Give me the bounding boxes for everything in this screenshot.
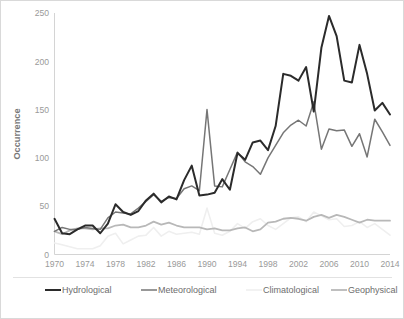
legend-label-climatological: Climatological: [263, 285, 319, 295]
plot-area: 050100150200250 197019741978198219861990…: [1, 1, 404, 319]
x-axis-tick-labels: 1970197419781982198619901994199820022006…: [45, 259, 400, 269]
y-axis-tick-labels: 050100150200250: [35, 8, 50, 260]
legend-label-geophysical: Geophysical: [348, 285, 398, 295]
chart-legend: HydrologicalMeteorologicalClimatological…: [45, 285, 398, 295]
legend-label-meteorological: Meteorological: [158, 285, 217, 295]
x-tick-label: 1970: [45, 259, 64, 269]
series-line-hydrological: [55, 16, 391, 234]
series-line-geophysical: [55, 215, 391, 234]
legend-label-hydrological: Hydrological: [62, 285, 112, 295]
series-line-meteorological: [55, 102, 391, 231]
x-tick-label: 1994: [228, 259, 247, 269]
x-tick-label: 1978: [106, 259, 125, 269]
x-tick-label: 1982: [136, 259, 155, 269]
chart-container: 050100150200250 197019741978198219861990…: [0, 0, 404, 319]
x-tick-label: 1998: [258, 259, 277, 269]
y-tick-label: 100: [35, 153, 50, 163]
y-axis-title: Occurrence: [12, 108, 22, 159]
x-tick-label: 1990: [197, 259, 216, 269]
y-tick-label: 250: [35, 8, 50, 18]
data-series-group: [55, 16, 391, 249]
x-tick-label: 2002: [289, 259, 308, 269]
y-tick-label: 50: [39, 201, 49, 211]
x-tick-label: 2006: [319, 259, 338, 269]
line-chart-svg: 050100150200250 197019741978198219861990…: [1, 1, 404, 319]
x-tick-label: 2010: [350, 259, 369, 269]
x-tick-label: 1986: [167, 259, 186, 269]
x-tick-label: 2014: [380, 259, 399, 269]
y-tick-label: 200: [35, 57, 50, 67]
x-tick-label: 1974: [75, 259, 94, 269]
y-tick-label: 150: [35, 105, 50, 115]
